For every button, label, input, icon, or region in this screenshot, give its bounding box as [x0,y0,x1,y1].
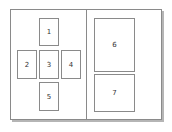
panel-divider [86,9,87,120]
box-label: 6 [112,41,116,49]
box-label: 4 [69,61,73,69]
box-4: 4 [61,50,81,79]
box-3: 3 [39,50,59,79]
box-label: 3 [47,61,51,69]
box-label: 5 [47,93,51,101]
box-5: 5 [39,82,59,111]
box-label: 1 [47,28,51,36]
box-6: 6 [94,18,135,72]
box-1: 1 [39,18,59,46]
box-label: 7 [112,89,116,97]
box-7: 7 [94,74,135,112]
box-label: 2 [25,61,29,69]
box-2: 2 [17,50,37,79]
